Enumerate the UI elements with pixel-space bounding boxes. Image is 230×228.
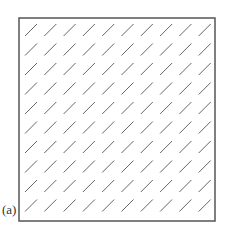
diagonal-dash — [44, 83, 56, 95]
diagonal-dash — [25, 200, 37, 212]
diagonal-dash — [44, 141, 56, 153]
diagonal-dash — [179, 24, 191, 36]
diagonal-dash — [25, 63, 37, 75]
diagonal-dash — [141, 161, 153, 173]
diagonal-dash — [160, 200, 172, 212]
diagonal-dash — [141, 83, 153, 95]
frame-box — [19, 18, 215, 221]
diagonal-dash — [44, 200, 56, 212]
diagonal-dash — [25, 44, 37, 56]
diagonal-dash — [83, 122, 95, 134]
diagonal-dash — [179, 83, 191, 95]
diagonal-dash — [160, 180, 172, 192]
diagonal-dash — [199, 200, 211, 212]
diagonal-dash — [102, 102, 114, 114]
diagonal-dash — [102, 161, 114, 173]
diagonal-dash — [44, 180, 56, 192]
diagonal-dash — [179, 161, 191, 173]
diagonal-dash — [141, 200, 153, 212]
diagonal-dash — [25, 24, 37, 36]
diagonal-dash — [25, 83, 37, 95]
diagonal-dash — [83, 141, 95, 153]
diagonal-dash — [83, 102, 95, 114]
diagonal-dash — [122, 161, 134, 173]
diagonal-dash — [199, 141, 211, 153]
diagonal-dash — [160, 24, 172, 36]
diagonal-dash — [102, 180, 114, 192]
diagonal-dash — [102, 24, 114, 36]
diagonal-dash — [102, 44, 114, 56]
diagonal-dash — [102, 83, 114, 95]
diagonal-dash — [44, 44, 56, 56]
diagonal-dash — [199, 24, 211, 36]
diagonal-dash — [179, 180, 191, 192]
diagonal-dash — [179, 44, 191, 56]
diagonal-dash — [44, 161, 56, 173]
diagonal-dash — [25, 180, 37, 192]
diagonal-dash — [122, 200, 134, 212]
diagonal-dash — [179, 102, 191, 114]
diagonal-dash — [122, 63, 134, 75]
diagonal-dash — [102, 141, 114, 153]
diagonal-dash — [141, 180, 153, 192]
panel-label: (a) — [2, 202, 16, 218]
diagonal-dash — [64, 83, 76, 95]
diagonal-dash — [64, 24, 76, 36]
diagonal-dash — [141, 122, 153, 134]
diagonal-dash — [141, 63, 153, 75]
diagonal-dash — [122, 122, 134, 134]
diagonal-dash — [25, 122, 37, 134]
diagonal-dash — [102, 63, 114, 75]
diagonal-dash — [83, 24, 95, 36]
diagonal-dash — [122, 141, 134, 153]
diagonal-dash — [179, 122, 191, 134]
diagonal-dash — [44, 24, 56, 36]
diagonal-dash — [141, 141, 153, 153]
diagonal-dash — [83, 200, 95, 212]
diagonal-dash — [199, 122, 211, 134]
diagonal-dash — [25, 102, 37, 114]
diagonal-dash — [160, 44, 172, 56]
diagonal-dash — [64, 180, 76, 192]
diagonal-dash — [179, 141, 191, 153]
diagonal-dash — [64, 63, 76, 75]
diagonal-dash — [122, 102, 134, 114]
diagonal-dash — [199, 44, 211, 56]
line-field-svg — [0, 0, 230, 228]
diagonal-dash — [83, 161, 95, 173]
diagonal-dash — [199, 102, 211, 114]
diagonal-dash — [64, 161, 76, 173]
diagonal-dash — [179, 200, 191, 212]
diagonal-dash — [160, 141, 172, 153]
diagonal-dash — [160, 83, 172, 95]
diagonal-dash — [64, 102, 76, 114]
diagonal-dash — [160, 102, 172, 114]
diagonal-dash — [44, 63, 56, 75]
diagonal-dash — [83, 63, 95, 75]
diagonal-dash — [64, 122, 76, 134]
diagonal-dash — [64, 141, 76, 153]
diagonal-dash — [141, 24, 153, 36]
diagonal-dash — [122, 180, 134, 192]
diagonal-dash — [160, 63, 172, 75]
diagonal-dash — [25, 141, 37, 153]
diagonal-dash — [64, 44, 76, 56]
diagonal-dash — [102, 122, 114, 134]
diagonal-dash — [83, 180, 95, 192]
diagonal-dash — [179, 63, 191, 75]
diagonal-dash — [199, 161, 211, 173]
diagonal-dash — [83, 44, 95, 56]
diagonal-dash — [44, 122, 56, 134]
diagonal-dash — [102, 200, 114, 212]
diagonal-dash — [122, 24, 134, 36]
diagonal-dash — [64, 200, 76, 212]
diagonal-dash — [83, 83, 95, 95]
diagonal-dash — [122, 44, 134, 56]
diagonal-dash — [160, 161, 172, 173]
diagonal-dash — [141, 102, 153, 114]
diagonal-dash-array — [25, 24, 211, 212]
diagonal-dash — [160, 122, 172, 134]
diagonal-dash — [44, 102, 56, 114]
diagonal-dash — [122, 83, 134, 95]
diagonal-dash — [199, 63, 211, 75]
